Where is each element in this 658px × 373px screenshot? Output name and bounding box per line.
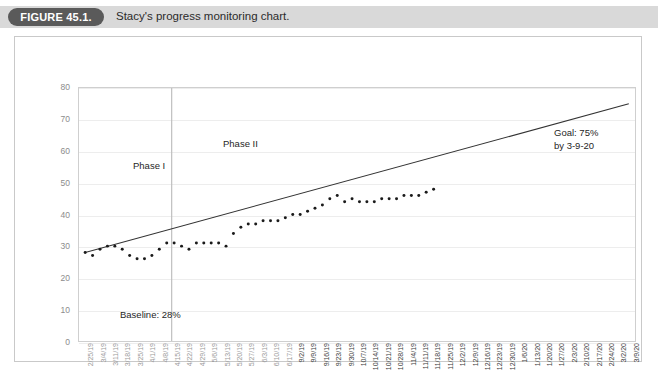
x-axis-tick-label: 10/28/19 [397, 343, 404, 370]
x-axis-tick-label: 3/25/19 [137, 343, 144, 366]
x-axis-tick-label: 1/20/20 [546, 343, 553, 366]
x-axis-tick-label: 3/11/19 [112, 343, 119, 366]
data-point [351, 197, 354, 200]
y-axis-tick-label: 60 [61, 146, 70, 156]
data-point [402, 194, 405, 197]
data-point [365, 200, 368, 203]
x-axis-tick-label: 10/21/19 [385, 343, 392, 370]
x-axis-tick-label: 2/17/20 [596, 343, 603, 366]
data-point [232, 232, 235, 235]
data-point [432, 188, 435, 191]
x-axis-tick-label: 2/25/19 [87, 343, 94, 366]
data-point [128, 254, 131, 257]
x-axis-tick-label: 12/2/19 [459, 343, 466, 366]
goal-line [85, 104, 629, 253]
x-axis-tick-label: 3/2/20 [620, 343, 627, 362]
data-point [313, 207, 316, 210]
data-point [210, 241, 213, 244]
x-axis-tick-label: 11/25/19 [447, 343, 454, 370]
data-point [321, 204, 324, 207]
x-axis-tick-label: 11/11/19 [422, 343, 429, 369]
data-point [328, 197, 331, 200]
y-axis-tick-label: 50 [61, 178, 70, 188]
x-axis-tick-label: 4/29/19 [199, 343, 206, 366]
data-point [336, 194, 339, 197]
data-point [388, 197, 391, 200]
x-axis-tick-label: 9/16/19 [323, 343, 330, 366]
data-point [180, 245, 183, 248]
data-point [106, 245, 109, 248]
x-axis-tick-label: 2/24/20 [608, 343, 615, 366]
x-axis-tick-label: 3/4/19 [100, 343, 107, 362]
x-axis-tick-label: 6/10/19 [273, 343, 280, 366]
plot-area [78, 87, 636, 342]
data-point [380, 197, 383, 200]
data-point [306, 210, 309, 213]
data-point [299, 213, 302, 216]
x-axis-tick-label: 12/16/19 [484, 343, 491, 370]
data-point [158, 248, 161, 251]
data-point [262, 219, 265, 222]
goal-label-line1: Goal: 75% [554, 126, 598, 139]
data-point [84, 251, 87, 254]
x-axis-tick-label: 3/18/19 [124, 343, 131, 366]
x-axis-tick-label: 1/27/20 [558, 343, 565, 366]
x-axis-label-layer: 2/25/193/4/193/11/193/18/193/25/194/1/19… [78, 343, 636, 373]
y-axis-tick-label: 10 [61, 305, 70, 315]
x-axis-tick-label: 9/23/19 [335, 343, 342, 366]
x-axis-tick-label: 4/15/19 [174, 343, 181, 366]
x-axis-tick-label: 4/1/19 [149, 343, 156, 362]
x-axis-tick-label: 6/3/19 [261, 343, 268, 362]
data-point [410, 194, 413, 197]
goal-label-line2: by 3-9-20 [554, 139, 598, 152]
x-axis-tick-label: 12/30/19 [509, 343, 516, 370]
data-point [136, 257, 139, 260]
data-point [217, 241, 220, 244]
data-point [284, 216, 287, 219]
data-point [143, 257, 146, 260]
x-axis-tick-label: 3/9/20 [633, 343, 640, 362]
data-point [247, 222, 250, 225]
data-point [425, 191, 428, 194]
phase-1-label: Phase I [133, 160, 165, 171]
data-point [239, 226, 242, 229]
x-axis-tick-label: 12/23/19 [496, 343, 503, 370]
x-axis-tick-label: 4/8/19 [162, 343, 169, 362]
phase-2-label: Phase II [223, 138, 258, 149]
data-point [173, 241, 176, 244]
data-point [291, 213, 294, 216]
y-axis-tick-label: 70 [61, 114, 70, 124]
data-point [343, 200, 346, 203]
data-point [358, 200, 361, 203]
x-axis-tick-label: 10/7/19 [360, 343, 367, 366]
y-axis-tick-label: 30 [61, 241, 70, 251]
y-axis-tick-label: 80 [61, 82, 70, 92]
data-point [121, 248, 124, 251]
x-axis-tick-label: 5/13/19 [224, 343, 231, 366]
data-point [165, 241, 168, 244]
x-axis-tick-label: 4/22/19 [186, 343, 193, 366]
chart-frame: 01020304050607080 2/25/193/4/193/11/193/… [14, 36, 642, 362]
x-axis-tick-label: 1/6/20 [521, 343, 528, 362]
x-axis-tick-label: 6/17/19 [286, 343, 293, 366]
data-point [202, 241, 205, 244]
x-axis-tick-label: 5/6/19 [211, 343, 218, 362]
chart-data-overlay [79, 88, 635, 341]
goal-annotation: Goal: 75% by 3-9-20 [554, 126, 598, 152]
x-axis-tick-label: 1/13/20 [534, 343, 541, 366]
y-axis-tick-label: 40 [61, 210, 70, 220]
x-axis-tick-label: 9/9/19 [310, 343, 317, 362]
x-axis-tick-label: 9/2/19 [298, 343, 305, 362]
data-point [269, 219, 272, 222]
data-point [91, 254, 94, 257]
data-point [395, 197, 398, 200]
data-point [373, 200, 376, 203]
data-point [150, 254, 153, 257]
x-axis-tick-label: 2/10/20 [583, 343, 590, 366]
figure-number-badge: FIGURE 45.1. [8, 8, 104, 26]
data-point [187, 248, 190, 251]
x-axis-tick-label: 11/18/19 [434, 343, 441, 370]
data-point [195, 241, 198, 244]
figure-caption-text: Stacy's progress monitoring chart. [116, 10, 290, 22]
data-point [276, 219, 279, 222]
